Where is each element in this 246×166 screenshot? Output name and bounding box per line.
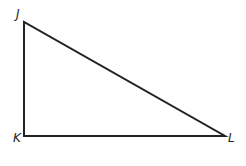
vertex-label-l: L — [228, 131, 235, 145]
triangle-diagram: J K L — [0, 0, 246, 166]
triangle-jkl — [24, 22, 225, 136]
vertex-label-j: J — [14, 7, 20, 21]
vertex-label-k: K — [13, 131, 22, 145]
